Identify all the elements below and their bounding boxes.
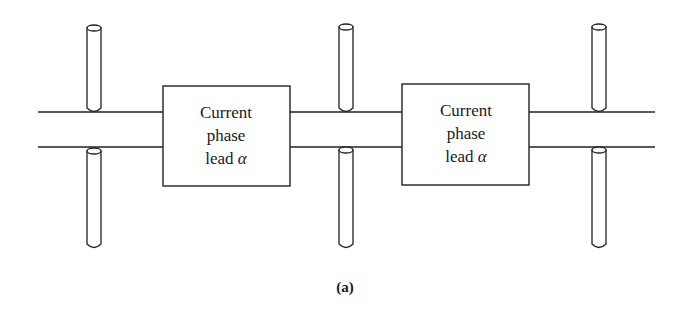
dipole-antenna-3 [592, 24, 606, 248]
phase-block-label-line1: Current [200, 103, 252, 122]
dipole-lower-element [592, 150, 606, 248]
dipole-rod-cap [87, 148, 101, 154]
phase-block-label-lead: lead [445, 147, 478, 166]
phase-block-label-lead: lead [205, 149, 238, 168]
phase-lead-block-2: Current phase lead α [402, 84, 529, 185]
dipole-rod-cap [592, 147, 606, 153]
figure-caption: (a) [336, 279, 354, 296]
dipole-antenna-2 [339, 24, 353, 248]
antenna-array-diagram: Current phase lead α Current phase lead … [0, 0, 685, 316]
dipole-lower-element [87, 151, 101, 248]
dipole-lower-element [339, 150, 353, 248]
alpha-symbol: α [478, 147, 488, 166]
dipole-antenna-1 [87, 25, 101, 248]
dipole-rod-cap [87, 25, 101, 31]
alpha-symbol: α [238, 149, 248, 168]
phase-block-label-line3: lead α [205, 149, 248, 168]
phase-block-label-line1: Current [440, 101, 492, 120]
phase-lead-block-1: Current phase lead α [163, 86, 290, 186]
dipole-upper-element [339, 27, 353, 112]
phase-block-label-line2: phase [447, 124, 486, 143]
dipole-rod-cap [592, 24, 606, 30]
phase-block-label-line2: phase [207, 126, 246, 145]
dipole-rod-cap [339, 24, 353, 30]
dipole-rod-cap [339, 147, 353, 153]
transmission-line [38, 112, 655, 147]
phase-block-label-line3: lead α [445, 147, 488, 166]
dipole-upper-element [592, 27, 606, 112]
dipole-upper-element [87, 28, 101, 112]
